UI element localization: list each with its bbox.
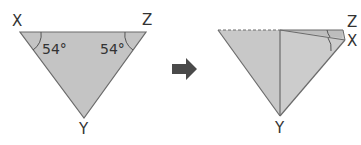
- vertex-label-x-right: X: [347, 32, 357, 50]
- vertex-label-z: Z: [142, 11, 152, 29]
- vertex-label-z-right: Z: [347, 13, 357, 31]
- folded-region: [280, 30, 345, 116]
- left-triangle: X Z Y 54° 54°: [12, 11, 152, 138]
- right-arrow-icon: [172, 58, 197, 80]
- right-triangle-folded: Z X Y: [218, 13, 357, 137]
- angle-label-z: 54°: [100, 41, 125, 57]
- vertex-label-y-right: Y: [274, 119, 285, 137]
- triangle-xyz: [20, 32, 146, 118]
- vertex-label-y: Y: [78, 120, 89, 138]
- triangle-folding-diagram: X Z Y 54° 54° Z X Y: [0, 0, 361, 145]
- angle-label-x: 54°: [42, 41, 67, 57]
- vertex-label-x: X: [12, 12, 22, 30]
